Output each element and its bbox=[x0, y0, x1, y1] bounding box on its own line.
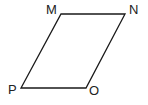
parallelogram-mnop bbox=[21, 14, 125, 88]
vertex-label-p: P bbox=[8, 82, 17, 97]
vertex-label-m: M bbox=[46, 2, 57, 17]
diagram-canvas: M N O P bbox=[0, 0, 148, 105]
vertex-label-o: O bbox=[89, 83, 99, 98]
parallelogram-figure: M N O P bbox=[0, 0, 148, 105]
vertex-label-n: N bbox=[129, 2, 138, 17]
